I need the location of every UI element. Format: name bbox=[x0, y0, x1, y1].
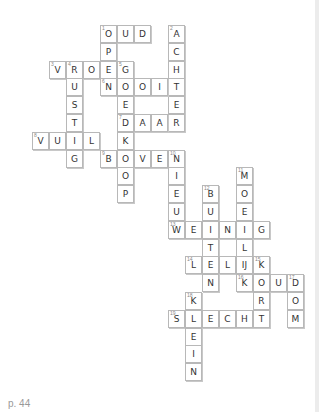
crossword-cell[interactable]: I bbox=[66, 132, 83, 150]
crossword-cell[interactable]: C bbox=[219, 310, 236, 328]
crossword-cell[interactable]: 7D bbox=[117, 114, 134, 132]
crossword-cell[interactable]: H bbox=[168, 61, 185, 79]
scrollbar[interactable] bbox=[315, 0, 319, 412]
crossword-cell[interactable]: E bbox=[168, 96, 185, 114]
cell-letter: O bbox=[101, 29, 116, 39]
crossword-cell[interactable]: I bbox=[168, 167, 185, 185]
crossword-cell[interactable]: L bbox=[185, 310, 202, 328]
crossword-cell[interactable]: T bbox=[168, 78, 185, 96]
crossword-cell[interactable]: 1O bbox=[100, 25, 117, 43]
crossword-cell[interactable]: A bbox=[151, 114, 168, 132]
crossword-cell[interactable]: U bbox=[66, 78, 83, 96]
crossword-cell[interactable]: N bbox=[185, 363, 202, 381]
cell-letter: E bbox=[186, 332, 201, 342]
crossword-cell[interactable]: O bbox=[83, 61, 100, 79]
crossword-cell[interactable]: 13W bbox=[168, 221, 185, 239]
crossword-cell[interactable]: H bbox=[236, 310, 253, 328]
crossword-cell[interactable]: L bbox=[219, 256, 236, 274]
crossword-cell[interactable]: T bbox=[202, 239, 219, 257]
crossword-cell[interactable]: P bbox=[117, 185, 134, 203]
crossword-cell[interactable]: U bbox=[168, 203, 185, 221]
crossword-cell[interactable]: G bbox=[253, 221, 270, 239]
crossword-cell[interactable]: E bbox=[202, 310, 219, 328]
cell-letter: E bbox=[118, 100, 133, 110]
crossword-cell[interactable]: K bbox=[117, 132, 134, 150]
cell-letter: U bbox=[169, 207, 184, 217]
cell-letter: A bbox=[169, 29, 184, 39]
crossword-cell[interactable]: U bbox=[202, 203, 219, 221]
crossword-cell[interactable]: R bbox=[253, 292, 270, 310]
crossword-cell[interactable]: N bbox=[202, 274, 219, 292]
cell-letter: R bbox=[67, 65, 82, 75]
cell-letter: U bbox=[50, 136, 65, 146]
crossword-cell[interactable]: P bbox=[100, 43, 117, 61]
crossword-cell[interactable]: E bbox=[100, 61, 117, 79]
crossword-cell[interactable]: E bbox=[185, 328, 202, 346]
crossword-cell[interactable]: 6N bbox=[100, 78, 117, 96]
crossword-cell[interactable]: A bbox=[134, 114, 151, 132]
crossword-cell[interactable]: 8V bbox=[32, 132, 49, 150]
crossword-cell[interactable]: G bbox=[66, 150, 83, 168]
crossword-cell[interactable]: S bbox=[66, 96, 83, 114]
crossword-cell[interactable]: 14L bbox=[185, 256, 202, 274]
crossword-cell[interactable]: 18K bbox=[185, 292, 202, 310]
crossword-cell[interactable]: 12B bbox=[202, 185, 219, 203]
crossword-cell[interactable]: 17D bbox=[287, 274, 304, 292]
cell-letter: T bbox=[169, 82, 184, 92]
crossword-cell[interactable]: R bbox=[168, 114, 185, 132]
crossword-cell[interactable]: O bbox=[134, 78, 151, 96]
crossword-cell[interactable]: O bbox=[117, 78, 134, 96]
crossword-cell[interactable]: V bbox=[134, 150, 151, 168]
crossword-cell[interactable]: 10N bbox=[168, 150, 185, 168]
cell-letter: U bbox=[203, 207, 218, 217]
crossword-cell[interactable]: T bbox=[253, 310, 270, 328]
cell-letter: W bbox=[169, 225, 184, 235]
crossword-cell[interactable]: E bbox=[202, 256, 219, 274]
crossword-cell[interactable]: O bbox=[117, 167, 134, 185]
crossword-cell[interactable]: O bbox=[117, 150, 134, 168]
crossword-cell[interactable]: 3V bbox=[49, 61, 66, 79]
cell-letter: V bbox=[135, 154, 150, 164]
cell-letter: G bbox=[118, 65, 133, 75]
crossword-cell[interactable]: N bbox=[219, 221, 236, 239]
crossword-cell[interactable]: O bbox=[253, 274, 270, 292]
crossword-cell[interactable]: U bbox=[270, 274, 287, 292]
cell-letter: S bbox=[169, 314, 184, 324]
crossword-cell[interactable]: 4R bbox=[66, 61, 83, 79]
crossword-cell[interactable]: U bbox=[49, 132, 66, 150]
crossword-cell[interactable]: D bbox=[134, 25, 151, 43]
crossword-cell[interactable]: E bbox=[151, 150, 168, 168]
crossword-cell[interactable]: I bbox=[151, 78, 168, 96]
crossword-cell[interactable]: T bbox=[66, 114, 83, 132]
cell-letter: I bbox=[237, 225, 252, 235]
crossword-cell[interactable]: 2A bbox=[168, 25, 185, 43]
cell-letter: I bbox=[203, 225, 218, 235]
cell-letter: H bbox=[237, 314, 252, 324]
crossword-cell[interactable]: O bbox=[236, 185, 253, 203]
cell-letter: D bbox=[135, 29, 150, 39]
crossword-cell[interactable]: 11M bbox=[236, 167, 253, 185]
crossword-cell[interactable]: C bbox=[168, 43, 185, 61]
crossword-cell[interactable]: IJ bbox=[236, 256, 253, 274]
crossword-cell[interactable]: 9B bbox=[100, 150, 117, 168]
crossword-cell[interactable]: E bbox=[168, 185, 185, 203]
crossword-cell[interactable]: I bbox=[236, 221, 253, 239]
crossword-cell[interactable]: 5G bbox=[117, 61, 134, 79]
cell-letter: O bbox=[84, 65, 99, 75]
cell-letter: T bbox=[203, 243, 218, 253]
crossword-cell[interactable]: E bbox=[236, 203, 253, 221]
cell-letter: P bbox=[118, 189, 133, 199]
crossword-cell[interactable]: O bbox=[287, 292, 304, 310]
crossword-cell[interactable]: M bbox=[287, 310, 304, 328]
crossword-cell[interactable]: L bbox=[83, 132, 100, 150]
crossword-cell[interactable]: L bbox=[236, 239, 253, 257]
crossword-cell[interactable]: I bbox=[185, 345, 202, 363]
crossword-cell[interactable]: I bbox=[202, 221, 219, 239]
crossword-cell[interactable]: U bbox=[117, 25, 134, 43]
crossword-cell[interactable]: E bbox=[185, 221, 202, 239]
crossword-cell[interactable]: E bbox=[117, 96, 134, 114]
crossword-cell[interactable]: 16K bbox=[236, 274, 253, 292]
crossword-cell[interactable]: 15K bbox=[253, 256, 270, 274]
crossword-cell[interactable]: 19S bbox=[168, 310, 185, 328]
cell-letter: R bbox=[169, 118, 184, 128]
